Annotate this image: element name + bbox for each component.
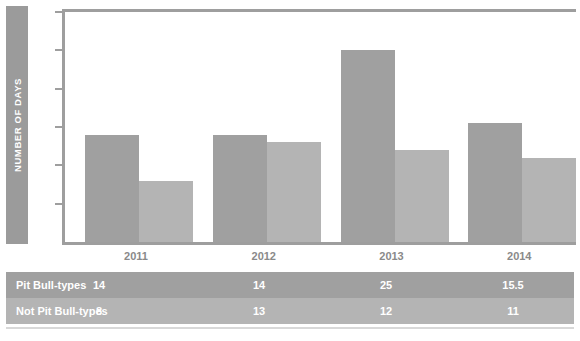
- plot-area: [62, 9, 576, 245]
- table-cell-2013: 12: [380, 305, 392, 317]
- y-axis-label-text: NUMBER OF DAYS: [12, 78, 23, 172]
- table-cell-2011: 8: [96, 305, 102, 317]
- y-tick-mark: [55, 164, 62, 166]
- table-row: Not Pit Bull-types8131211: [6, 298, 574, 324]
- bar-2011-series-0: [85, 135, 139, 242]
- bars-layer: [65, 12, 576, 242]
- x-tick-label-2011: 2011: [124, 250, 148, 262]
- y-tick-mark: [55, 49, 62, 51]
- bar-2012-series-0: [213, 135, 267, 242]
- y-tick-mark: [55, 11, 62, 13]
- x-tick-label-2012: 2012: [252, 250, 276, 262]
- table-row: Pit Bull-types14142515.5: [6, 272, 574, 298]
- table-cell-2014: 15.5: [502, 279, 523, 291]
- x-tick-label-2013: 2013: [379, 250, 403, 262]
- table-row-label: Not Pit Bull-types: [16, 305, 108, 317]
- data-table: Pit Bull-types14142515.5Not Pit Bull-typ…: [6, 272, 574, 324]
- y-tick-mark: [55, 126, 62, 128]
- bar-2012-series-1: [267, 142, 321, 242]
- table-cell-2013: 25: [380, 279, 392, 291]
- table-cell-2012: 13: [253, 305, 265, 317]
- y-tick-mark: [55, 203, 62, 205]
- table-cell-2014: 11: [507, 305, 519, 317]
- table-cell-2011: 14: [93, 279, 105, 291]
- x-axis-line: [62, 242, 576, 245]
- bar-2013-series-1: [395, 150, 449, 242]
- table-cell-2012: 14: [253, 279, 265, 291]
- bar-2011-series-1: [139, 181, 193, 242]
- bar-chart-figure: NUMBER OF DAYS 30252015105 2011201220132…: [0, 0, 580, 341]
- table-bottom-divider: [6, 327, 574, 329]
- y-axis-label-bar: NUMBER OF DAYS: [6, 6, 28, 244]
- bar-2014-series-1: [522, 158, 576, 242]
- bar-2014-series-0: [468, 123, 522, 242]
- bar-2013-series-0: [341, 50, 395, 242]
- table-row-label: Pit Bull-types: [16, 279, 86, 291]
- x-tick-label-2014: 2014: [507, 250, 531, 262]
- x-axis-tick-labels: 2011201220132014: [62, 250, 576, 268]
- y-tick-mark: [55, 88, 62, 90]
